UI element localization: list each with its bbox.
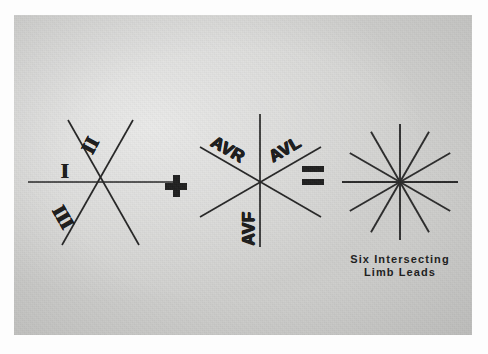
six-intersecting-limb-leads-diagram: Six Intersecting Limb Leads bbox=[324, 15, 472, 335]
lead-i-label: I bbox=[61, 161, 69, 181]
combined-diagram-caption: Six Intersecting Limb Leads bbox=[320, 253, 472, 279]
photo-border: I II III AVR AVL AVF bbox=[0, 0, 488, 354]
equals-operator bbox=[302, 166, 324, 185]
star-group bbox=[342, 124, 458, 240]
equals-icon bbox=[302, 166, 324, 185]
combined-leads-svg bbox=[324, 15, 472, 335]
caption-line-2: Limb Leads bbox=[320, 266, 472, 279]
photograph-print: I II III AVR AVL AVF bbox=[14, 15, 472, 335]
lead-avf-label: AVF bbox=[240, 212, 257, 246]
caption-line-1: Six Intersecting bbox=[320, 253, 472, 266]
